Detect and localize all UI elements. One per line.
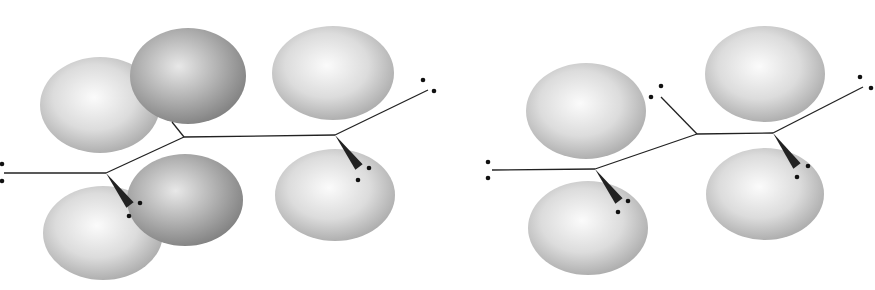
electron-dot	[432, 89, 437, 94]
orbital-lobe	[706, 148, 824, 240]
electron-dot	[138, 201, 143, 206]
orbital-lobe	[275, 149, 395, 241]
electron-dot	[659, 84, 664, 89]
orbital-lobe	[130, 28, 246, 124]
orbital-lobe	[705, 26, 825, 122]
orbital-lobe	[272, 26, 394, 120]
bond-line	[184, 135, 335, 137]
electron-dot	[486, 176, 491, 181]
right-structure	[486, 26, 874, 275]
electron-dot	[0, 179, 4, 184]
left-structure	[0, 26, 436, 280]
electron-dot	[858, 75, 863, 80]
bond-line	[492, 169, 595, 170]
electron-dot	[421, 78, 426, 83]
bond-line	[172, 122, 184, 137]
electron-dot	[616, 210, 621, 215]
bond-line	[661, 97, 697, 134]
electron-dot	[626, 199, 631, 204]
electron-dot	[367, 166, 372, 171]
electron-dot	[649, 95, 654, 100]
electron-dot	[806, 164, 811, 169]
bond-line	[697, 133, 773, 134]
electron-dot	[486, 160, 491, 165]
orbital-lobe	[127, 154, 243, 246]
orbital-lobe	[528, 181, 648, 275]
electron-dot	[0, 162, 4, 167]
orbital-diagram	[0, 0, 875, 290]
electron-dot	[795, 175, 800, 180]
electron-dot	[356, 178, 361, 183]
electron-dot	[869, 86, 874, 91]
orbital-lobe	[526, 63, 646, 159]
diagram-canvas	[0, 0, 875, 290]
electron-dot	[127, 214, 132, 219]
